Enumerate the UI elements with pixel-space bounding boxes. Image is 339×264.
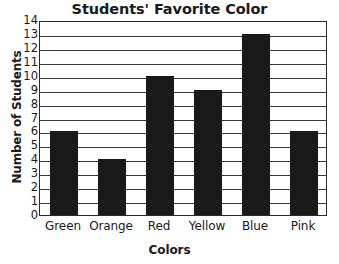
plot-area [39, 21, 327, 216]
x-axis-title: Colors [0, 243, 339, 257]
y-axis-tick-label: 14 [14, 15, 38, 27]
y-axis-tick-label: 7 [14, 113, 38, 125]
y-axis-tick-label: 11 [14, 57, 38, 69]
bar-chart: Students' Favorite Color Number of Stude… [0, 0, 339, 264]
bar [290, 131, 318, 215]
y-axis-tick-label: 5 [14, 141, 38, 153]
y-axis-tick-label: 2 [14, 182, 38, 194]
bar [194, 90, 222, 215]
bars-group [40, 22, 326, 215]
y-axis-tick-label: 6 [14, 127, 38, 139]
x-axis-tick-label: Red [135, 219, 183, 234]
x-axis-tick-label: Yellow [183, 219, 231, 234]
bar [242, 34, 270, 215]
y-axis-tick-labels: 01234567891011121314 [14, 21, 38, 216]
y-axis-tick-label: 13 [14, 29, 38, 41]
y-axis-tick-label: 8 [14, 99, 38, 111]
x-axis-tick-labels: GreenOrangeRedYellowBluePink [39, 219, 327, 239]
y-axis-tick-label: 12 [14, 43, 38, 55]
chart-title: Students' Favorite Color [0, 1, 339, 17]
bar [98, 159, 126, 215]
bar [146, 76, 174, 215]
y-axis-tick-label: 9 [14, 85, 38, 97]
x-axis-tick-label: Orange [87, 219, 135, 234]
bar [50, 131, 78, 215]
x-axis-tick-label: Green [39, 219, 87, 234]
y-axis-tick-label: 0 [14, 210, 38, 222]
y-axis-tick-label: 3 [14, 168, 38, 180]
x-axis-tick-label: Blue [231, 219, 279, 234]
x-axis-tick-label: Pink [279, 219, 327, 234]
y-axis-tick-label: 10 [14, 71, 38, 83]
y-axis-tick-label: 1 [14, 196, 38, 208]
y-axis-tick-label: 4 [14, 155, 38, 167]
